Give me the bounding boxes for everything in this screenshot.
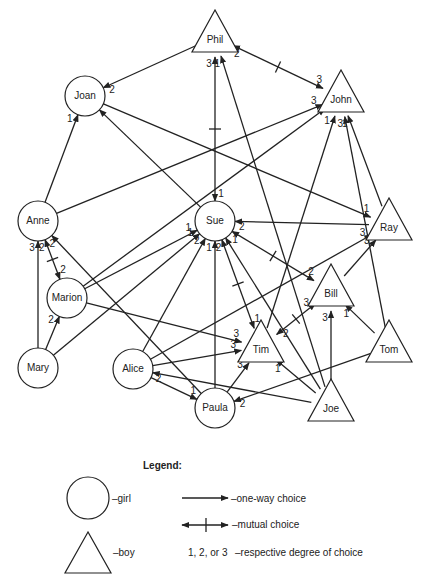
degree-label: 3 xyxy=(234,328,240,339)
degree-label: 2 xyxy=(216,242,222,253)
node-label: Phil xyxy=(207,34,224,45)
node-label: Tim xyxy=(253,344,269,355)
node-label: Joe xyxy=(323,403,340,414)
node-label: Mary xyxy=(27,362,49,373)
degree-label: 1 xyxy=(190,385,196,396)
degree-label: 1 xyxy=(343,308,349,319)
node-sue: Sue xyxy=(195,201,235,241)
degree-label: 1 xyxy=(218,188,224,199)
degree-label: 1 xyxy=(275,363,281,374)
legend-one-way-label: –one-way choice xyxy=(231,493,306,504)
degree-label: 3 xyxy=(311,95,317,106)
legend: Legend: –girl –boy –one-way choice –mutu… xyxy=(65,460,363,573)
node-joe: Joe xyxy=(308,379,354,421)
girl-symbol-icon xyxy=(67,477,109,519)
degree-label: 3 xyxy=(322,312,328,323)
degree-label: 2 xyxy=(39,242,45,253)
mutual-tick-icon xyxy=(275,62,280,73)
node-ray: Ray xyxy=(366,198,412,240)
boy-symbol-icon xyxy=(65,532,111,573)
degree-label: 2 xyxy=(308,266,314,277)
legend-degrees-key: 1, 2, or 3 xyxy=(188,547,228,558)
node-label: Bill xyxy=(324,288,337,299)
edge-alice-to-tim xyxy=(153,350,242,365)
degree-label: 2 xyxy=(240,398,246,409)
legend-boy-label: –boy xyxy=(113,547,135,558)
node-label: Alice xyxy=(122,363,144,374)
node-anne: Anne xyxy=(18,201,58,241)
edge-sue-to-joan xyxy=(99,110,200,207)
edge-bill-to-ray xyxy=(344,240,376,276)
node-bill: Bill xyxy=(308,264,354,306)
node-label: Ray xyxy=(380,222,398,233)
legend-girl-label: –girl xyxy=(112,493,131,504)
edge-joan-to-ray xyxy=(103,104,370,217)
degree-label: 2 xyxy=(239,221,245,232)
boy-triangle-icon xyxy=(308,379,354,421)
degree-label: 1 xyxy=(206,242,212,253)
degree-label: 2 xyxy=(49,238,55,249)
edge-marion-to-sue xyxy=(85,230,198,289)
degree-label: 1 xyxy=(188,227,194,238)
legend-degrees-label: –respective degree of choice xyxy=(235,547,363,558)
degree-label: 1 xyxy=(324,115,330,126)
degree-label: 3 xyxy=(337,118,343,129)
degree-label: 3 xyxy=(316,74,322,85)
degree-label: 3 xyxy=(29,242,35,253)
node-tim: Tim xyxy=(238,320,284,362)
boy-triangle-icon xyxy=(366,198,412,240)
degree-label: 1 xyxy=(232,234,238,245)
boy-triangle-icon xyxy=(366,320,412,362)
degree-label: 1 xyxy=(364,203,370,214)
node-phil: Phil xyxy=(192,10,238,52)
degree-label: 1 xyxy=(67,113,73,124)
edge-tom-to-bill xyxy=(345,305,374,333)
legend-mutual-label: –mutual choice xyxy=(232,519,300,530)
node-alice: Alice xyxy=(113,349,153,389)
degree-label: 2 xyxy=(156,373,162,384)
node-label: Tom xyxy=(380,344,399,355)
legend-title: Legend: xyxy=(143,460,182,471)
node-tom: Tom xyxy=(366,320,412,362)
node-marion: Marion xyxy=(47,278,87,318)
node-mary: Mary xyxy=(18,348,58,388)
node-label: Sue xyxy=(206,215,224,226)
mutual-tick-icon xyxy=(270,251,276,261)
edge-joe-to-tim xyxy=(276,360,315,393)
degree-label: 2 xyxy=(194,235,200,246)
boy-triangle-icon xyxy=(192,10,238,52)
node-label: Anne xyxy=(26,215,50,226)
degree-label: 2 xyxy=(48,314,54,325)
edge-ray-to-sue xyxy=(235,221,369,224)
node-joan: Joan xyxy=(65,76,105,116)
degree-label: 3 xyxy=(206,58,212,69)
node-label: Paula xyxy=(202,402,228,413)
edge-anne-to-joan xyxy=(45,115,78,203)
node-label: Marion xyxy=(52,292,83,303)
degree-label: 2 xyxy=(60,264,66,275)
degree-label: 2 xyxy=(109,84,115,95)
boy-triangle-icon xyxy=(238,320,284,362)
node-john: John xyxy=(318,70,364,112)
boy-triangle-icon xyxy=(308,264,354,306)
node-label: Joan xyxy=(74,90,96,101)
degree-label: 3 xyxy=(231,339,237,350)
sociogram-diagram: 232311311121321322133212312132132321231 … xyxy=(0,0,427,587)
node-label: John xyxy=(330,94,352,105)
mutual-tick-icon xyxy=(292,314,299,323)
edge-phil-to-joan xyxy=(103,45,197,87)
boy-triangle-icon xyxy=(318,70,364,112)
degree-label: 1 xyxy=(215,58,221,69)
node-paula: Paula xyxy=(195,388,235,428)
